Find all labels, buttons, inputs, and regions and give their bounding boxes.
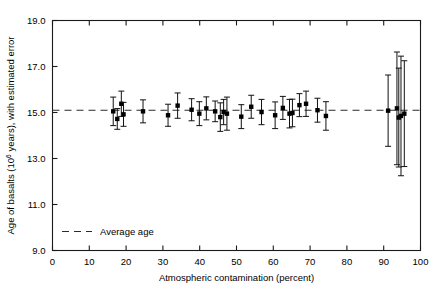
data-point-with-error [203,97,209,120]
data-point-with-error [272,102,278,129]
data-point-with-error [224,97,230,130]
x-tick-label: 100 [413,256,429,267]
x-tick-label: 30 [158,256,169,267]
data-point-with-error [212,101,218,122]
legend-label: Average age [100,226,154,237]
data-point-with-error [110,97,116,126]
data-point-with-error [259,99,265,124]
x-tick-label: 70 [305,256,316,267]
data-point-with-error [189,99,195,121]
data-point-with-error [140,100,146,123]
data-point-with-error [238,105,244,129]
x-tick-label: 50 [231,256,242,267]
y-tick-label: 15.0 [27,107,46,118]
data-point-with-error [196,102,202,126]
data-point-with-error [175,93,181,118]
y-tick-label: 19.0 [27,15,46,26]
x-tick-label: 0 [50,256,55,267]
x-tick-label: 60 [268,256,279,267]
y-tick-label: 17.0 [27,61,46,72]
x-axis-title: Atmospheric contamination (percent) [159,272,314,283]
y-tick-label: 11.0 [28,199,46,210]
x-tick-label: 10 [84,256,95,267]
y-tick-label: 13.0 [27,153,46,164]
y-tick-label: 9.0 [32,245,45,256]
data-point-with-error [385,75,391,146]
x-tick-label: 80 [342,256,353,267]
x-tick-label: 90 [378,256,389,267]
x-tick-label: 20 [121,256,132,267]
data-point-with-error [165,104,171,126]
chart-svg: 01020304050607080901009.011.013.015.017.… [0,0,442,298]
plot-frame [53,21,421,251]
data-point-with-error [248,95,254,118]
legend: Average age [62,226,154,237]
data-point-with-error [289,99,295,127]
data-point-with-error [303,91,309,116]
data-point-with-error [323,102,329,131]
data-series [110,52,407,176]
data-point-with-error [401,61,407,167]
chart-figure: 01020304050607080901009.011.013.015.017.… [0,0,442,298]
y-axis-title: Age of basalts (106 years), with estimat… [5,37,16,235]
x-tick-label: 40 [194,256,205,267]
data-point-with-error [217,103,223,132]
data-point-with-error [296,94,302,117]
data-point-with-error [280,96,286,119]
data-point-with-error [314,98,320,122]
